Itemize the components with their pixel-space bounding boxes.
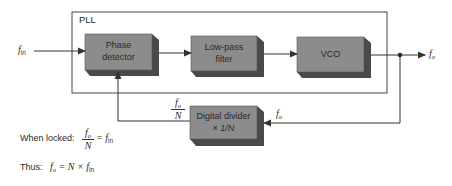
thus-label: Thus:: [20, 162, 43, 172]
vco-label: VCO: [297, 48, 364, 60]
output-signal-label: fo: [429, 48, 435, 59]
divided-signal-label: fo N: [171, 97, 185, 121]
locked-fraction: fo N: [82, 127, 94, 151]
thus-equation: fo = N × fin: [50, 161, 94, 172]
pll-title: PLL: [79, 14, 96, 25]
input-signal-label: fin: [18, 44, 26, 55]
phase-detector-label: Phase detector: [85, 39, 152, 63]
digital-divider-label: Digital divider × 1/N: [190, 110, 257, 134]
locked-label: When locked:: [20, 133, 75, 143]
feedback-signal-label: fo: [276, 108, 282, 119]
pll-diagram-graphics: [0, 0, 452, 186]
locked-rhs: = fin: [96, 132, 113, 143]
low-pass-filter-label: Low-pass filter: [191, 41, 257, 65]
